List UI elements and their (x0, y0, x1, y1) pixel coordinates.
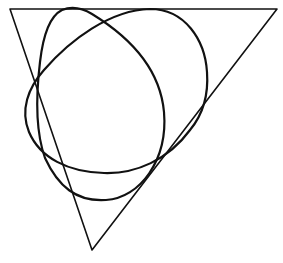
triangle (10, 9, 277, 250)
wide-oval-curve (25, 9, 207, 173)
inscribed-ovals-diagram (0, 0, 283, 263)
diagram-canvas (0, 0, 283, 263)
tall-oval-curve (37, 8, 164, 200)
